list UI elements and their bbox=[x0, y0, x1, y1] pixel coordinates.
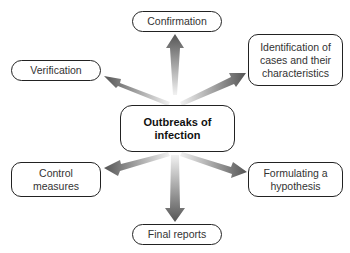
node-label: Identification of cases and their charac… bbox=[260, 41, 331, 80]
node-hypothesis: Formulating a hypothesis bbox=[248, 162, 343, 197]
node-center-outbreaks: Outbreaks of infection bbox=[120, 105, 235, 152]
arrow-to-hypothesis bbox=[180, 152, 247, 178]
node-control-measures: Control measures bbox=[11, 162, 101, 197]
node-label: Formulating a hypothesis bbox=[263, 167, 327, 193]
node-identification: Identification of cases and their charac… bbox=[248, 34, 343, 86]
node-verification: Verification bbox=[11, 60, 101, 81]
arrow-to-confirmation bbox=[166, 34, 184, 95]
node-label: Control measures bbox=[33, 167, 79, 193]
node-label: Confirmation bbox=[147, 15, 207, 28]
arrow-to-identification bbox=[180, 73, 246, 106]
node-label: Verification bbox=[30, 64, 81, 77]
arrow-to-verification bbox=[104, 76, 170, 106]
arrow-to-final-reports bbox=[165, 155, 185, 222]
node-label: Final reports bbox=[148, 228, 206, 241]
arrow-to-control-measures bbox=[104, 152, 170, 176]
node-confirmation: Confirmation bbox=[132, 11, 222, 32]
node-final-reports: Final reports bbox=[132, 224, 222, 245]
center-label: Outbreaks of infection bbox=[144, 116, 212, 142]
